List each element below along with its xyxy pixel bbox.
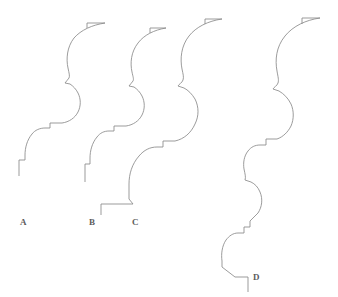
molding-profile-figure: A B C D: [0, 0, 338, 297]
profile-label-d: D: [253, 273, 260, 282]
profile-label-b: B: [89, 218, 95, 227]
profile-drawing-canvas: [0, 0, 338, 297]
profile-outline-c: [101, 19, 222, 215]
profile-outline-b: [85, 28, 166, 182]
profile-outline-a: [19, 23, 105, 176]
profile-label-c: C: [132, 218, 139, 227]
profile-outline-d: [222, 18, 320, 292]
profile-label-a: A: [20, 218, 27, 227]
